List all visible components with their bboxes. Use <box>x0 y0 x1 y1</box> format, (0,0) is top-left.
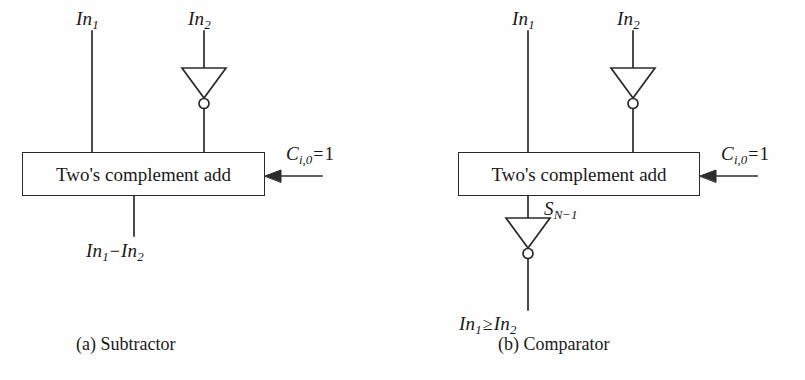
label-b-sum-tap-sub: N−1 <box>554 207 578 222</box>
inverter-a-triangle <box>182 68 226 98</box>
label-a-output-operator: − <box>109 241 121 261</box>
label-a-output-right-name: In <box>121 240 137 261</box>
inverter-a-bubble <box>199 99 209 109</box>
inverter-b-bottom-bubble <box>523 249 533 259</box>
block-b-label: Two's complement add <box>458 165 700 184</box>
label-a-in2: In2 <box>188 9 211 32</box>
label-a-in1-sub: 1 <box>92 17 98 32</box>
label-a-carry-in: Ci,0=1 <box>286 144 334 167</box>
label-b-carry-value: 1 <box>760 143 770 164</box>
label-b-output-operator: ≥ <box>482 314 494 334</box>
label-b-in1: In1 <box>512 9 535 32</box>
label-b-in2-name: In <box>617 8 633 29</box>
label-a-carry-value: 1 <box>325 143 335 164</box>
arrowhead-a-carry <box>265 170 281 182</box>
label-b-carry-sub: i,0 <box>734 152 747 167</box>
label-b-in1-sub: 1 <box>528 17 534 32</box>
label-b-sum-tap-name: S <box>544 198 554 219</box>
inverter-b-top-triangle <box>611 68 655 98</box>
label-a-carry-name: C <box>286 143 299 164</box>
label-b-carry-operator: = <box>747 144 759 164</box>
inverter-b-bottom-triangle <box>506 218 550 248</box>
label-b-in2-sub: 2 <box>633 17 639 32</box>
label-a-in1: In1 <box>76 9 99 32</box>
label-a-output-left-sub: 1 <box>102 249 108 264</box>
label-b-output-left-name: In <box>459 313 475 334</box>
caption-a: (a) Subtractor <box>76 334 175 355</box>
label-a-in1-name: In <box>76 8 92 29</box>
arrowhead-b-carry <box>700 170 716 182</box>
label-a-output: In1−In2 <box>86 241 144 264</box>
label-b-in2: In2 <box>617 9 640 32</box>
label-b-carry-name: C <box>721 143 734 164</box>
label-b-output-right-name: In <box>494 313 510 334</box>
inverter-b-top-bubble <box>628 99 638 109</box>
label-b-in1-name: In <box>512 8 528 29</box>
label-a-carry-operator: = <box>312 144 324 164</box>
label-b-sum-tap: SN−1 <box>544 199 577 222</box>
block-a-label: Two's complement add <box>22 165 265 184</box>
label-a-carry-sub: i,0 <box>299 152 312 167</box>
label-a-output-right-sub: 2 <box>137 249 143 264</box>
label-a-in2-name: In <box>188 8 204 29</box>
label-b-output-left-sub: 1 <box>475 322 481 337</box>
caption-b: (b) Comparator <box>498 334 609 355</box>
label-b-carry-in: Ci,0=1 <box>721 144 769 167</box>
label-a-output-left-name: In <box>86 240 102 261</box>
figure-two-complement-subtractor-comparator: Two's complement add In1 In2 Ci,0=1 In1−… <box>0 0 805 380</box>
label-a-in2-sub: 2 <box>204 17 210 32</box>
